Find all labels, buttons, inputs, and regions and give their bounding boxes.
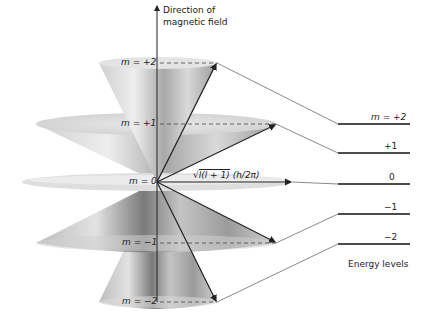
axis-title: Direction of magnetic field xyxy=(163,4,228,28)
axis-title-line2: magnetic field xyxy=(163,16,228,28)
axis-title-line1: Direction of xyxy=(163,4,228,16)
energy-label-minus-1: −1 xyxy=(384,203,397,212)
energy-label-plus-2: m = +2 xyxy=(371,113,406,122)
energy-label-0: 0 xyxy=(389,173,395,182)
diagram-canvas xyxy=(0,0,429,320)
sqrt-symbol: √ xyxy=(193,170,199,180)
radicand: l(l + 1) xyxy=(199,169,230,180)
m-label-minus-2: m = −2 xyxy=(122,297,157,306)
planck-factor: (h/2π) xyxy=(233,170,260,180)
vector-magnitude-formula: √l(l + 1) (h/2π) xyxy=(193,170,260,180)
m-label-0: m = 0 xyxy=(129,177,157,186)
energy-label-plus-1: +1 xyxy=(384,142,397,151)
energy-label-minus-2: −2 xyxy=(384,233,397,242)
energy-levels-title: Energy levels xyxy=(348,260,408,269)
m-label-minus-1: m = −1 xyxy=(122,238,157,247)
m-label-plus-1: m = +1 xyxy=(121,119,156,128)
energy-level-bars xyxy=(338,124,410,244)
m-label-plus-2: m = +2 xyxy=(121,58,156,67)
